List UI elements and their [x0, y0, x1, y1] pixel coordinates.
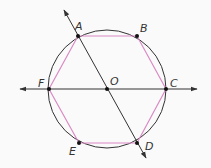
point-e	[77, 141, 81, 145]
hexagon-diagram: ABCDEFO	[0, 0, 211, 168]
label-o: O	[110, 75, 119, 88]
label-d: D	[145, 140, 153, 153]
point-a	[76, 34, 80, 38]
point-b	[135, 34, 139, 38]
point-d	[135, 141, 139, 145]
diagram-frame: ABCDEFO	[0, 0, 211, 168]
point-o	[105, 87, 109, 91]
label-b: B	[140, 22, 148, 35]
label-f: F	[38, 77, 45, 90]
label-c: C	[170, 77, 178, 90]
label-e: E	[69, 145, 76, 158]
point-c	[164, 87, 168, 91]
label-a: A	[74, 20, 83, 33]
point-f	[47, 87, 51, 91]
